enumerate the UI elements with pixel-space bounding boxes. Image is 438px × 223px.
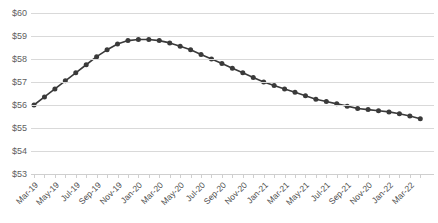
data-point bbox=[272, 83, 277, 88]
data-point bbox=[167, 40, 172, 45]
data-point bbox=[407, 114, 412, 119]
data-point bbox=[240, 70, 245, 75]
data-point bbox=[397, 111, 402, 116]
x-axis-tick bbox=[65, 174, 66, 178]
x-axis-tick bbox=[159, 174, 160, 178]
data-point bbox=[355, 106, 360, 111]
x-axis-tick bbox=[420, 174, 421, 178]
x-axis-tick-label: May-20 bbox=[108, 180, 186, 223]
x-axis-tick-label: Sep-20 bbox=[150, 180, 228, 223]
gridline bbox=[31, 36, 434, 37]
data-point bbox=[178, 44, 183, 49]
data-point bbox=[146, 37, 151, 42]
data-point bbox=[73, 70, 78, 75]
x-axis-tick-label: Jan-22 bbox=[317, 180, 395, 223]
x-axis-tick-label: Nov-20 bbox=[296, 180, 374, 223]
gridline bbox=[31, 13, 434, 14]
x-axis-tick bbox=[232, 174, 233, 178]
data-point bbox=[376, 108, 381, 113]
x-axis-tick bbox=[410, 174, 411, 178]
y-axis: $60$59$58$57$56$55$54$53 bbox=[0, 0, 31, 223]
x-axis-tick bbox=[107, 174, 108, 178]
data-point bbox=[157, 38, 162, 43]
x-axis-tick-label: Jul-21 bbox=[255, 180, 333, 223]
data-point bbox=[293, 90, 298, 95]
x-axis-tick bbox=[347, 174, 348, 178]
series-line bbox=[31, 13, 434, 174]
x-axis-tick bbox=[253, 174, 254, 178]
x-axis-tick-label: Sep-21 bbox=[275, 180, 353, 223]
y-axis-tick-label: $55 bbox=[12, 123, 27, 133]
x-axis-tick bbox=[222, 174, 223, 178]
data-point bbox=[366, 107, 371, 112]
x-axis-tick bbox=[379, 174, 380, 178]
data-point bbox=[219, 61, 224, 66]
x-axis-tick-label: May-21 bbox=[234, 180, 312, 223]
gridline bbox=[31, 151, 434, 152]
x-axis-tick bbox=[305, 174, 306, 178]
data-point bbox=[313, 97, 318, 102]
gridline bbox=[31, 128, 434, 129]
data-point bbox=[105, 47, 110, 52]
x-axis-tick-label: Nov-19 bbox=[46, 180, 124, 223]
x-axis-tick bbox=[170, 174, 171, 178]
x-axis-tick bbox=[86, 174, 87, 178]
plot-area bbox=[31, 13, 434, 174]
x-axis-tick bbox=[368, 174, 369, 178]
data-point bbox=[84, 62, 89, 67]
x-axis-tick-label: Jul-20 bbox=[129, 180, 207, 223]
y-axis-tick-label: $53 bbox=[12, 169, 27, 179]
x-axis-tick bbox=[97, 174, 98, 178]
data-point bbox=[136, 37, 141, 42]
x-axis-tick bbox=[128, 174, 129, 178]
y-axis-tick-label: $54 bbox=[12, 146, 27, 156]
y-axis-tick-label: $60 bbox=[12, 8, 27, 18]
x-axis-tick-label: Jan-21 bbox=[192, 180, 270, 223]
data-point bbox=[324, 99, 329, 104]
x-axis-tick bbox=[149, 174, 150, 178]
data-point bbox=[52, 86, 57, 91]
data-point bbox=[251, 75, 256, 80]
x-axis-tick bbox=[138, 174, 139, 178]
data-point bbox=[282, 86, 287, 91]
x-axis-tick bbox=[44, 174, 45, 178]
data-point bbox=[386, 109, 391, 114]
x-axis-tick bbox=[389, 174, 390, 178]
line-chart: $60$59$58$57$56$55$54$53 Mar-19May-19Jul… bbox=[0, 0, 438, 223]
x-axis-tick bbox=[180, 174, 181, 178]
x-axis-tick bbox=[316, 174, 317, 178]
y-axis-tick-label: $59 bbox=[12, 31, 27, 41]
x-axis-tick bbox=[34, 174, 35, 178]
x-axis-tick bbox=[399, 174, 400, 178]
data-point bbox=[188, 47, 193, 52]
x-axis-tick bbox=[76, 174, 77, 178]
x-axis-tick-label: Mar-21 bbox=[213, 180, 291, 223]
x-axis-tick bbox=[211, 174, 212, 178]
x-axis-tick bbox=[295, 174, 296, 178]
x-axis-tick-label: Mar-20 bbox=[88, 180, 166, 223]
x-axis-tick-label: Nov-20 bbox=[171, 180, 249, 223]
data-point bbox=[199, 52, 204, 57]
gridline bbox=[31, 82, 434, 83]
x-axis-tick bbox=[337, 174, 338, 178]
data-point bbox=[125, 38, 130, 43]
x-axis-tick-label: Sep-19 bbox=[25, 180, 103, 223]
y-axis-tick-label: $58 bbox=[12, 54, 27, 64]
x-axis-tick-label: Mar-22 bbox=[338, 180, 416, 223]
gridline bbox=[31, 59, 434, 60]
x-axis-tick bbox=[201, 174, 202, 178]
x-axis-tick bbox=[358, 174, 359, 178]
data-point bbox=[42, 94, 47, 99]
data-point bbox=[303, 93, 308, 98]
x-axis-tick-label: Jan-20 bbox=[67, 180, 145, 223]
gridline bbox=[31, 105, 434, 106]
x-axis-tick bbox=[285, 174, 286, 178]
x-axis-tick bbox=[264, 174, 265, 178]
x-axis-tick bbox=[274, 174, 275, 178]
x-axis-tick bbox=[326, 174, 327, 178]
data-point bbox=[230, 66, 235, 71]
x-axis-tick bbox=[55, 174, 56, 178]
x-axis-tick bbox=[191, 174, 192, 178]
y-axis-tick-label: $57 bbox=[12, 77, 27, 87]
x-axis-tick bbox=[118, 174, 119, 178]
